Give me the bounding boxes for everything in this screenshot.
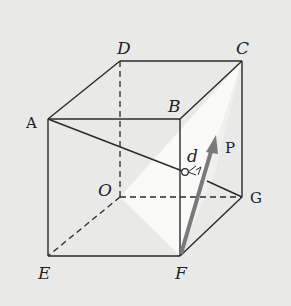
label-b: B [167,96,181,116]
label-d: d [187,146,198,166]
label-p: P [225,139,235,157]
label-o: O [98,180,112,200]
label-d-vertex: D [116,38,131,58]
label-g: G [250,189,262,207]
label-c: C [236,38,249,58]
label-e: E [37,263,51,283]
label-a: A [25,114,37,132]
cube-diagram: D C A B d P O G E F [0,0,291,306]
label-f: F [174,263,188,283]
point-marker [182,169,189,176]
shaded-plane [120,61,242,256]
